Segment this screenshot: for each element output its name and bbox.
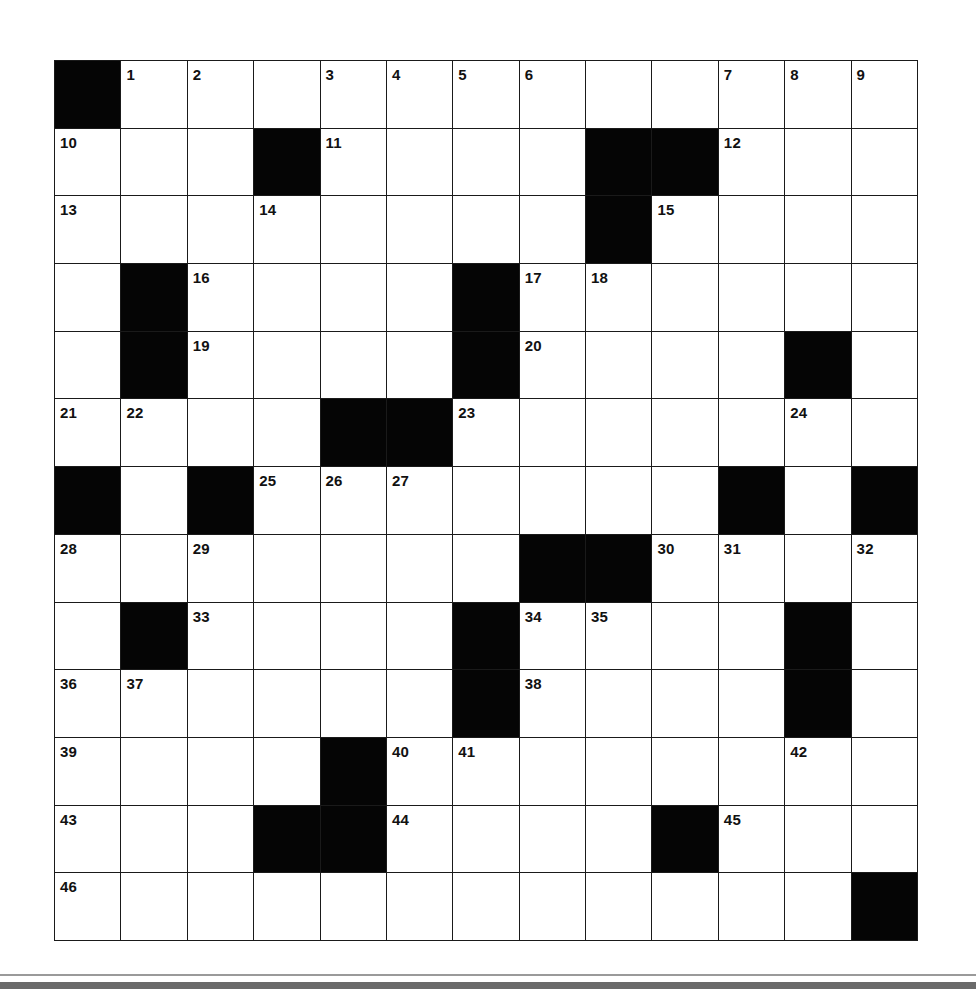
grid-cell[interactable]: 26 <box>321 467 387 535</box>
grid-cell[interactable] <box>652 467 718 535</box>
grid-cell[interactable] <box>852 196 918 264</box>
grid-cell[interactable] <box>55 603 121 671</box>
grid-cell[interactable] <box>719 738 785 806</box>
grid-cell[interactable] <box>254 332 320 400</box>
grid-cell[interactable] <box>586 332 652 400</box>
grid-cell[interactable] <box>785 129 851 197</box>
grid-cell[interactable] <box>652 738 718 806</box>
grid-cell[interactable] <box>321 196 387 264</box>
grid-cell[interactable] <box>121 738 187 806</box>
grid-cell[interactable] <box>586 670 652 738</box>
grid-cell[interactable] <box>188 873 254 941</box>
grid-cell[interactable] <box>254 873 320 941</box>
grid-cell[interactable]: 41 <box>453 738 519 806</box>
grid-cell[interactable] <box>852 670 918 738</box>
grid-cell[interactable] <box>586 873 652 941</box>
grid-cell[interactable] <box>321 670 387 738</box>
grid-cell[interactable] <box>520 399 586 467</box>
grid-cell[interactable] <box>121 129 187 197</box>
grid-cell[interactable] <box>321 332 387 400</box>
grid-cell[interactable] <box>652 873 718 941</box>
grid-cell[interactable] <box>719 196 785 264</box>
grid-cell[interactable] <box>188 806 254 874</box>
grid-cell[interactable] <box>121 535 187 603</box>
grid-cell[interactable] <box>453 873 519 941</box>
grid-cell[interactable] <box>188 129 254 197</box>
grid-cell[interactable] <box>652 399 718 467</box>
grid-cell[interactable] <box>121 806 187 874</box>
grid-cell[interactable]: 8 <box>785 61 851 129</box>
grid-cell[interactable]: 24 <box>785 399 851 467</box>
grid-cell[interactable] <box>586 399 652 467</box>
grid-cell[interactable]: 18 <box>586 264 652 332</box>
grid-cell[interactable]: 4 <box>387 61 453 129</box>
grid-cell[interactable]: 16 <box>188 264 254 332</box>
grid-cell[interactable] <box>387 264 453 332</box>
grid-cell[interactable] <box>453 129 519 197</box>
grid-cell[interactable]: 28 <box>55 535 121 603</box>
grid-cell[interactable]: 3 <box>321 61 387 129</box>
grid-cell[interactable]: 13 <box>55 196 121 264</box>
grid-cell[interactable] <box>387 129 453 197</box>
grid-cell[interactable] <box>254 670 320 738</box>
grid-cell[interactable] <box>652 670 718 738</box>
grid-cell[interactable] <box>852 399 918 467</box>
grid-cell[interactable] <box>785 535 851 603</box>
grid-cell[interactable] <box>520 467 586 535</box>
grid-cell[interactable] <box>852 129 918 197</box>
grid-cell[interactable]: 30 <box>652 535 718 603</box>
grid-cell[interactable] <box>321 264 387 332</box>
grid-cell[interactable]: 9 <box>852 61 918 129</box>
grid-cell[interactable]: 35 <box>586 603 652 671</box>
grid-cell[interactable] <box>652 332 718 400</box>
grid-cell[interactable]: 25 <box>254 467 320 535</box>
grid-cell[interactable] <box>852 806 918 874</box>
grid-cell[interactable]: 45 <box>719 806 785 874</box>
grid-cell[interactable]: 2 <box>188 61 254 129</box>
grid-cell[interactable] <box>520 873 586 941</box>
grid-cell[interactable] <box>254 535 320 603</box>
grid-cell[interactable] <box>453 196 519 264</box>
grid-cell[interactable] <box>121 873 187 941</box>
grid-cell[interactable] <box>852 603 918 671</box>
grid-cell[interactable] <box>121 467 187 535</box>
grid-cell[interactable]: 19 <box>188 332 254 400</box>
grid-cell[interactable]: 23 <box>453 399 519 467</box>
grid-cell[interactable]: 32 <box>852 535 918 603</box>
grid-cell[interactable] <box>520 196 586 264</box>
grid-cell[interactable] <box>652 264 718 332</box>
grid-cell[interactable] <box>719 603 785 671</box>
grid-cell[interactable] <box>387 535 453 603</box>
grid-cell[interactable] <box>852 264 918 332</box>
grid-cell[interactable] <box>188 196 254 264</box>
grid-cell[interactable] <box>321 873 387 941</box>
grid-cell[interactable] <box>188 399 254 467</box>
grid-cell[interactable] <box>254 603 320 671</box>
grid-cell[interactable]: 17 <box>520 264 586 332</box>
grid-cell[interactable] <box>387 670 453 738</box>
grid-cell[interactable] <box>785 196 851 264</box>
grid-cell[interactable]: 1 <box>121 61 187 129</box>
grid-cell[interactable] <box>652 603 718 671</box>
grid-cell[interactable] <box>520 738 586 806</box>
grid-cell[interactable]: 39 <box>55 738 121 806</box>
grid-cell[interactable]: 20 <box>520 332 586 400</box>
grid-cell[interactable]: 21 <box>55 399 121 467</box>
grid-cell[interactable]: 10 <box>55 129 121 197</box>
grid-cell[interactable] <box>387 196 453 264</box>
grid-cell[interactable]: 34 <box>520 603 586 671</box>
grid-cell[interactable]: 14 <box>254 196 320 264</box>
grid-cell[interactable] <box>719 670 785 738</box>
grid-cell[interactable] <box>586 806 652 874</box>
grid-cell[interactable] <box>852 332 918 400</box>
grid-cell[interactable] <box>254 738 320 806</box>
grid-cell[interactable]: 33 <box>188 603 254 671</box>
grid-cell[interactable] <box>719 332 785 400</box>
grid-cell[interactable] <box>55 332 121 400</box>
grid-cell[interactable]: 22 <box>121 399 187 467</box>
grid-cell[interactable] <box>453 535 519 603</box>
grid-cell[interactable] <box>785 467 851 535</box>
grid-cell[interactable] <box>453 467 519 535</box>
grid-cell[interactable]: 29 <box>188 535 254 603</box>
grid-cell[interactable]: 31 <box>719 535 785 603</box>
